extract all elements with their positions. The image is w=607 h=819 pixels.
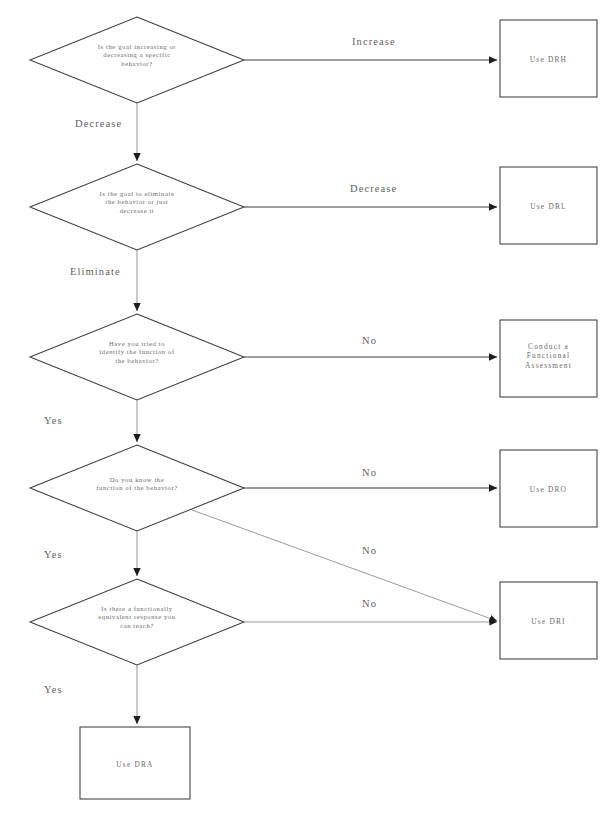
edge-label-yes-d4: Yes bbox=[44, 549, 63, 560]
outcome-shape-o5[interactable] bbox=[500, 582, 597, 659]
connector-d4-to-o5-diagonal bbox=[192, 510, 497, 621]
edge-label-no-d5: No bbox=[362, 598, 377, 609]
edge-label-decrease-d1: Decrease bbox=[75, 118, 122, 129]
edge-label-no-d4: No bbox=[362, 467, 377, 478]
outcome-shape-o6[interactable] bbox=[80, 727, 190, 799]
edge-label-no-d4-diagonal: No bbox=[362, 545, 377, 556]
edge-label-decrease-d2: Decrease bbox=[350, 183, 397, 194]
flowchart-canvas: Is the goal increasing or decreasing a s… bbox=[0, 0, 607, 819]
edge-label-eliminate-d2: Eliminate bbox=[70, 266, 121, 277]
decision-shape-d5[interactable] bbox=[30, 579, 244, 665]
edge-label-yes-d3: Yes bbox=[44, 415, 63, 426]
edge-label-no-d3: No bbox=[362, 335, 377, 346]
decision-shape-d1[interactable] bbox=[30, 17, 244, 103]
outcome-shape-o3[interactable] bbox=[500, 320, 597, 397]
decision-shape-d2[interactable] bbox=[30, 164, 244, 250]
edge-label-yes-d5: Yes bbox=[44, 684, 63, 695]
edge-label-increase-d1: Increase bbox=[352, 36, 396, 47]
decision-shape-d4[interactable] bbox=[30, 445, 244, 531]
outcome-shape-o1[interactable] bbox=[500, 20, 597, 97]
decision-shape-d3[interactable] bbox=[30, 314, 244, 400]
outcome-shape-o2[interactable] bbox=[500, 167, 597, 244]
outcome-shape-o4[interactable] bbox=[500, 450, 597, 527]
